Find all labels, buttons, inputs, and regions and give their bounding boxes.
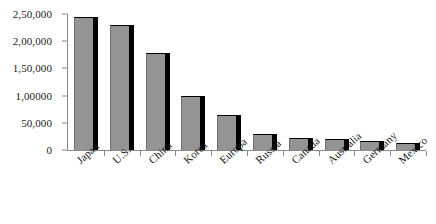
y-axis-tick-mark — [62, 122, 67, 123]
x-axis-tick-mark — [211, 151, 212, 156]
y-axis-tick-label: 2,50,000 — [13, 8, 52, 20]
bar-slot — [253, 14, 277, 150]
bar-shadow — [93, 18, 98, 150]
bar-slot — [360, 14, 384, 150]
bar-japan — [74, 17, 98, 150]
bar-slot — [74, 14, 98, 150]
x-axis-tick-mark — [104, 151, 105, 156]
y-axis-tick-mark — [62, 150, 67, 151]
bar-slot — [396, 14, 420, 150]
bar-u-s — [110, 25, 134, 150]
bar-shadow — [165, 54, 170, 150]
x-axis-tick-mark — [140, 151, 141, 156]
bar-slot — [110, 14, 134, 150]
x-axis: JapanU.S.ChinaKoreaEuropaRussiaCanadaAus… — [68, 157, 426, 224]
y-axis-tick-label: 50,000 — [21, 117, 52, 129]
y-axis-tick-mark — [62, 14, 67, 15]
bar-slot — [146, 14, 170, 150]
x-axis-tick-mark — [426, 151, 427, 156]
x-axis-tick-mark — [175, 151, 176, 156]
y-axis-tick-mark — [62, 41, 67, 42]
bar-slot — [289, 14, 313, 150]
x-axis-tick-mark — [247, 151, 248, 156]
bar-slot — [181, 14, 205, 150]
bar-china — [146, 53, 170, 150]
y-axis: 050,0001,000001,50,0002,00,0002,50,000 — [0, 0, 62, 224]
bar-chart: 050,0001,000001,50,0002,00,0002,50,000 J… — [0, 0, 436, 224]
x-axis-tick-mark — [319, 151, 320, 156]
bar-shadow — [129, 26, 134, 150]
y-axis-tick-mark — [62, 95, 67, 96]
x-axis-tick-mark — [283, 151, 284, 156]
x-axis-tick-mark — [390, 151, 391, 156]
x-axis-tick-mark — [354, 151, 355, 156]
bar-slot — [325, 14, 349, 150]
y-axis-tick-mark — [62, 68, 67, 69]
y-axis-tick-label: 1,50,000 — [13, 62, 52, 74]
y-axis-tick-label: 0 — [46, 144, 52, 156]
plot-area — [68, 14, 426, 150]
y-axis-tick-label: 2,00,000 — [13, 35, 52, 47]
bar-slot — [217, 14, 241, 150]
y-axis-tick-label: 1,00000 — [16, 90, 52, 102]
